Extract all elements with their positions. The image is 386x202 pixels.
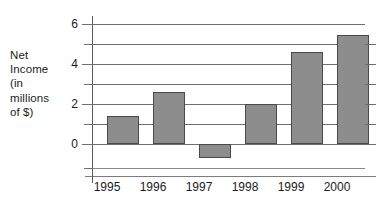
x-axis-label-1996: 1996 <box>130 180 176 194</box>
y-tick-6 <box>82 24 93 25</box>
gridline-5 <box>93 44 365 45</box>
bar-1997 <box>199 144 231 158</box>
gridline-4 <box>93 64 365 65</box>
y-axis-spine <box>92 16 93 178</box>
bar-1998 <box>245 104 277 144</box>
y-axis-label-2: 2 <box>56 98 78 110</box>
y-tick-right-4 <box>365 64 376 65</box>
y-tick-right-0 <box>365 144 376 145</box>
y-tick-1 <box>84 124 93 125</box>
x-axis-label-1998: 1998 <box>222 180 268 194</box>
y-tick-0 <box>82 144 93 145</box>
bar-1996 <box>153 92 185 144</box>
bar-2000 <box>337 35 369 144</box>
x-axis-line <box>85 176 376 177</box>
y-tick-4 <box>82 64 93 65</box>
gridline-3 <box>93 84 365 85</box>
y-tick-right-2 <box>365 104 376 105</box>
x-axis-label-1999: 1999 <box>268 180 314 194</box>
y-tick-right-5 <box>365 44 376 45</box>
plot-area <box>93 24 365 169</box>
gridline-bottom-frame <box>93 168 365 169</box>
y-tick-right-3 <box>365 84 376 85</box>
gridline-6 <box>93 24 365 25</box>
bar-chart: Net Income (in millions of $) 6 4 2 0 <box>0 0 386 202</box>
y-tick-5 <box>84 44 93 45</box>
y-axis-label-0: 0 <box>56 138 78 150</box>
x-axis-label-1997: 1997 <box>176 180 222 194</box>
x-axis-label-2000: 2000 <box>314 180 360 194</box>
y-axis-label-4: 4 <box>56 58 78 70</box>
bar-1995 <box>107 116 139 144</box>
y-tick-right-1 <box>365 124 376 125</box>
y-tick-3 <box>84 84 93 85</box>
bar-1999 <box>291 52 323 144</box>
y-tick-2 <box>82 104 93 105</box>
x-axis-label-1995: 1995 <box>84 180 130 194</box>
y-axis-label-6: 6 <box>56 18 78 30</box>
gridline-2 <box>93 104 365 105</box>
